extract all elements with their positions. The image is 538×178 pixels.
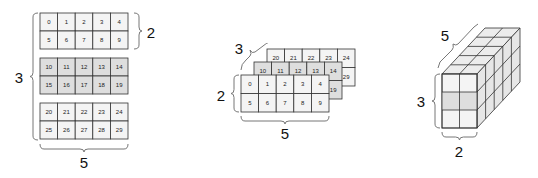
brace-width-cube (442, 132, 477, 140)
cell-value: 24 (343, 55, 350, 61)
cell-value: 22 (308, 55, 315, 61)
label-blocks-count: 3 (15, 69, 23, 86)
brace-rows (134, 13, 142, 49)
cell-value: 10 (45, 64, 52, 70)
cell-value: 19 (330, 87, 337, 93)
cell-value: 21 (290, 55, 297, 61)
cell-value: 11 (63, 64, 70, 70)
brace-blocks (30, 13, 38, 140)
cell-value: 18 (98, 82, 105, 88)
label-cols-count-middle: 5 (281, 125, 289, 142)
cell-value: 28 (98, 127, 105, 133)
cell-value: 10 (259, 68, 266, 74)
brace-cols-middle (241, 116, 329, 124)
cell-value: 11 (277, 68, 284, 74)
cell-value: 13 (312, 68, 319, 74)
array-shape-diagram: 0123456789101112131415161718192021222324… (0, 0, 538, 178)
brace-height-cube (432, 74, 440, 128)
cell-value: 29 (116, 127, 123, 133)
cube-grid (442, 28, 520, 128)
label-depth-count: 3 (235, 40, 243, 57)
cell-value: 16 (63, 82, 70, 88)
cell-value: 14 (116, 64, 123, 70)
brace-cols (40, 144, 128, 152)
cell-value: 12 (81, 64, 88, 70)
layered-slabs-panel: 2021222324252627282910111213141516171819… (231, 43, 355, 124)
cell-value: 21 (63, 109, 70, 115)
cell-value: 25 (45, 127, 52, 133)
label-width-count-cube: 2 (455, 143, 463, 160)
cell-value: 14 (330, 68, 337, 74)
label-height-count-cube: 3 (417, 93, 425, 110)
cell-value: 24 (116, 109, 123, 115)
label-cols-count: 5 (80, 154, 88, 171)
cell-value: 13 (98, 64, 105, 70)
cell-value: 20 (45, 109, 52, 115)
cell-value: 12 (295, 68, 302, 74)
cell-value: 23 (325, 55, 332, 61)
cell-value: 19 (116, 82, 123, 88)
block-1: 10111213141516171819 (40, 58, 128, 94)
block-0: 0123456789 (40, 13, 128, 49)
label-rows-count: 2 (147, 24, 155, 41)
block-2: 20212223242526272829 (40, 103, 128, 139)
cell-value: 15 (45, 82, 52, 88)
slab-2: 0123456789 (241, 75, 329, 112)
cell-value: 27 (81, 127, 88, 133)
cell-value: 26 (63, 127, 70, 133)
cell-value: 17 (81, 82, 88, 88)
cell-value: 20 (272, 55, 279, 61)
brace-rows-middle (231, 75, 239, 112)
label-rows-count-middle: 2 (217, 87, 225, 104)
stacked-blocks-panel: 0123456789101112131415161718192021222324… (30, 13, 142, 152)
label-depth-count-cube: 5 (441, 27, 449, 44)
cell-value: 29 (343, 74, 350, 80)
cell-value: 23 (98, 109, 105, 115)
cell-value: 22 (81, 109, 88, 115)
